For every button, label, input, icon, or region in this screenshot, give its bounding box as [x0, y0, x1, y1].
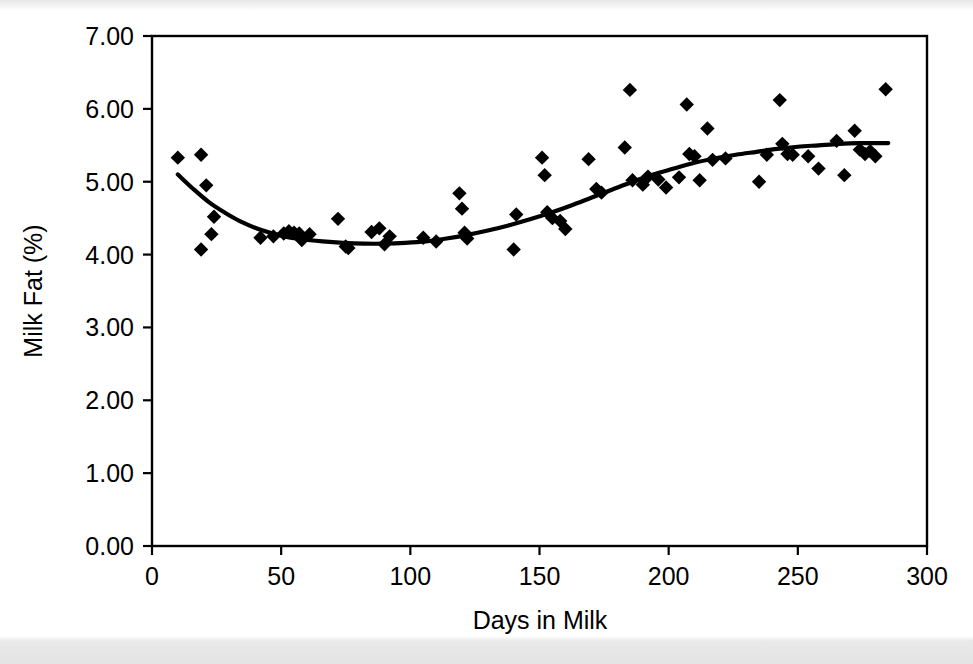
x-tick-label: 50 [267, 562, 295, 590]
y-axis-title: Milk Fat (%) [19, 224, 47, 357]
data-point-marker [692, 173, 706, 187]
x-tick-label: 250 [777, 562, 819, 590]
data-point-marker [847, 124, 861, 138]
chart-page: 0.001.002.003.004.005.006.007.00 0501001… [0, 0, 973, 664]
data-point-marker [194, 148, 208, 162]
data-point-marker [801, 149, 815, 163]
y-tick-label: 4.00 [85, 241, 134, 269]
data-point-marker [773, 93, 787, 107]
y-tick-label: 0.00 [85, 532, 134, 560]
plot-area-frame [152, 36, 927, 546]
data-point-marker [878, 82, 892, 96]
x-tick-label: 300 [906, 562, 948, 590]
y-tick-label: 2.00 [85, 386, 134, 414]
scatter-data-points [171, 82, 893, 257]
x-axis-title: Days in Milk [473, 606, 608, 634]
data-point-marker [581, 152, 595, 166]
data-point-marker [535, 150, 549, 164]
y-tick-label: 5.00 [85, 168, 134, 196]
data-point-marker [199, 178, 213, 192]
y-axis-tick-labels: 0.001.002.003.004.005.006.007.00 [85, 22, 134, 560]
data-point-marker [537, 168, 551, 182]
x-tick-label: 0 [145, 562, 159, 590]
data-point-marker [672, 170, 686, 184]
milk-fat-scatter-chart: 0.001.002.003.004.005.006.007.00 0501001… [0, 0, 973, 664]
data-point-marker [455, 201, 469, 215]
y-axis-tick-marks [143, 36, 152, 546]
data-point-marker [194, 242, 208, 256]
data-point-marker [204, 227, 218, 241]
x-tick-label: 200 [648, 562, 690, 590]
data-point-marker [331, 212, 345, 226]
data-point-marker [811, 161, 825, 175]
y-tick-label: 7.00 [85, 22, 134, 50]
data-point-marker [752, 175, 766, 189]
data-point-marker [506, 242, 520, 256]
y-tick-label: 6.00 [85, 95, 134, 123]
data-point-marker [171, 150, 185, 164]
data-point-marker [837, 168, 851, 182]
data-point-marker [509, 207, 523, 221]
x-tick-label: 100 [389, 562, 431, 590]
data-point-marker [618, 140, 632, 154]
x-axis-tick-marks [152, 546, 927, 555]
x-axis-tick-labels: 050100150200250300 [145, 562, 948, 590]
data-point-marker [623, 83, 637, 97]
x-tick-label: 150 [519, 562, 561, 590]
data-point-marker [680, 97, 694, 111]
y-tick-label: 1.00 [85, 459, 134, 487]
data-point-marker [452, 186, 466, 200]
y-tick-label: 3.00 [85, 313, 134, 341]
data-point-marker [700, 121, 714, 135]
data-point-marker [207, 209, 221, 223]
